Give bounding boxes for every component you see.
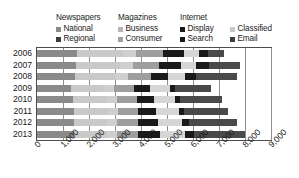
legend-item-business[interactable]: Business: [118, 24, 176, 34]
y-axis-tick-label: 2009: [13, 84, 32, 93]
bar-segment-national[interactable]: [37, 62, 76, 69]
bar-segment-business[interactable]: [107, 96, 117, 103]
legend-group-title-internet: Internet: [180, 13, 294, 23]
bar-segment-display[interactable]: [159, 62, 181, 69]
bar-segment-email[interactable]: [208, 50, 225, 57]
chart-legend: Newspapers National Regional Magazines B…: [56, 13, 294, 46]
y-axis-tick-label: 2011: [14, 107, 32, 116]
bar-segment-email[interactable]: [184, 108, 228, 115]
bar-segment-national[interactable]: [37, 108, 74, 115]
bar-segment-search[interactable]: [196, 62, 210, 69]
bar-segment-display[interactable]: [138, 108, 156, 115]
bar-segment-display[interactable]: [137, 96, 154, 103]
legend-item-display[interactable]: Display: [180, 24, 230, 34]
legend-label-search: Search: [188, 34, 213, 44]
legend-group-title-magazines: Magazines: [118, 13, 176, 23]
bar-segment-email[interactable]: [180, 96, 222, 103]
x-axis-tick-label: 0: [33, 140, 43, 150]
bar-segment-regional[interactable]: [71, 85, 105, 92]
legend-swatch-consumer: [118, 37, 123, 42]
bar-segment-email[interactable]: [209, 62, 239, 69]
bar-segment-display[interactable]: [163, 50, 184, 57]
legend-swatch-display: [180, 27, 185, 32]
legend-row-internet-1: Display Classified: [180, 24, 294, 34]
legend-item-email[interactable]: Email: [230, 34, 257, 44]
bar-segment-consumer[interactable]: [133, 62, 159, 69]
bar-segment-search[interactable]: [185, 73, 196, 80]
bar-segment-display[interactable]: [151, 73, 168, 80]
gridline: [271, 48, 272, 140]
y-axis-tick-label: 2013: [13, 130, 32, 139]
bar-segment-business[interactable]: [123, 50, 137, 57]
legend-item-classified[interactable]: Classified: [230, 24, 272, 34]
bar-row[interactable]: [37, 119, 271, 126]
bar-segment-classified[interactable]: [154, 96, 175, 103]
y-axis-tick-label: 2010: [13, 95, 32, 104]
bar-segment-classified[interactable]: [150, 85, 170, 92]
legend-item-national[interactable]: National: [56, 24, 114, 34]
bar-segment-display[interactable]: [134, 85, 150, 92]
y-axis-tick-label: 2012: [13, 118, 32, 127]
bar-segment-classified[interactable]: [181, 62, 196, 69]
legend-label-display: Display: [188, 24, 214, 34]
bar-segment-national[interactable]: [37, 85, 71, 92]
bar-segment-business[interactable]: [116, 73, 128, 80]
bar-segment-consumer[interactable]: [118, 108, 139, 115]
bar-segment-regional[interactable]: [75, 73, 117, 80]
legend-item-consumer[interactable]: Consumer: [118, 34, 176, 44]
legend-row-internet-2: Search Email: [180, 34, 294, 44]
bar-segment-consumer[interactable]: [117, 96, 137, 103]
bar-segment-consumer[interactable]: [117, 119, 138, 126]
y-axis-tick-label: 2007: [13, 61, 32, 70]
bar-row[interactable]: [37, 50, 271, 57]
bar-segment-classified[interactable]: [158, 119, 181, 126]
bar-segment-email[interactable]: [175, 85, 211, 92]
bar-segment-regional[interactable]: [76, 62, 120, 69]
bar-segment-regional[interactable]: [74, 108, 108, 115]
bar-segment-classified[interactable]: [156, 108, 178, 115]
bar-segment-business[interactable]: [120, 62, 133, 69]
legend-swatch-regional: [56, 37, 61, 42]
bar-segment-regional[interactable]: [74, 119, 107, 126]
bar-segment-national[interactable]: [37, 96, 73, 103]
legend-item-regional[interactable]: Regional: [56, 34, 114, 44]
legend-label-business: Business: [126, 24, 158, 34]
bar-segment-national[interactable]: [37, 73, 75, 80]
bar-segment-consumer[interactable]: [136, 50, 163, 57]
legend-swatch-search: [180, 37, 185, 42]
bar-segment-regional[interactable]: [77, 50, 123, 57]
legend-item-search[interactable]: Search: [180, 34, 230, 44]
legend-group-title-newspapers: Newspapers: [56, 13, 114, 23]
bar-row[interactable]: [37, 108, 271, 115]
bar-segment-consumer[interactable]: [114, 85, 134, 92]
bar-segment-display[interactable]: [138, 119, 158, 126]
legend-label-regional: Regional: [64, 34, 96, 44]
legend-swatch-email: [230, 37, 235, 42]
legend-group-internet: Internet Display Classified Search: [180, 13, 294, 44]
bar-segment-classified[interactable]: [184, 50, 199, 57]
bar-row[interactable]: [37, 62, 271, 69]
bars-container: [37, 48, 271, 140]
bar-segment-classified[interactable]: [168, 73, 185, 80]
bar-segment-business[interactable]: [108, 108, 118, 115]
y-axis-tick-label: 2008: [13, 72, 32, 81]
bar-segment-national[interactable]: [37, 119, 74, 126]
bar-segment-email[interactable]: [189, 119, 237, 126]
plot-area: [36, 47, 272, 141]
legend-label-national: National: [64, 24, 93, 34]
bar-segment-search[interactable]: [199, 50, 208, 57]
bar-row[interactable]: [37, 73, 271, 80]
legend-group-newspapers: Newspapers National Regional: [56, 13, 114, 44]
bar-segment-email[interactable]: [196, 73, 237, 80]
bar-segment-regional[interactable]: [73, 96, 107, 103]
bar-row[interactable]: [37, 96, 271, 103]
legend-label-email: Email: [238, 34, 258, 44]
y-axis-labels: 20062007200820092010201120122013: [0, 47, 34, 141]
bar-row[interactable]: [37, 85, 271, 92]
bar-segment-business[interactable]: [105, 85, 115, 92]
legend-label-consumer: Consumer: [126, 34, 163, 44]
bar-segment-business[interactable]: [107, 119, 117, 126]
bar-segment-national[interactable]: [37, 50, 77, 57]
bar-segment-search[interactable]: [182, 119, 189, 126]
bar-segment-consumer[interactable]: [128, 73, 151, 80]
